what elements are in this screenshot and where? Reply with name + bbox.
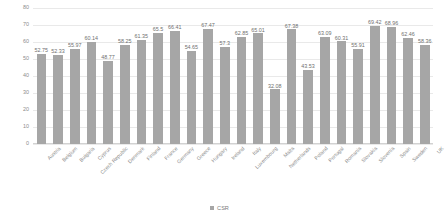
bar-value-label: 65.5 (153, 27, 164, 32)
bar[interactable]: 67.47 (203, 29, 213, 144)
chart-legend: CSR (0, 205, 439, 211)
bar-value-label: 60.14 (85, 36, 99, 41)
y-axis-tick-label: 40 (0, 73, 29, 78)
bar[interactable]: 58.25 (120, 45, 130, 144)
bar-slot: 58.36 (416, 8, 433, 144)
bar-value-label: 65.01 (251, 28, 265, 33)
y-axis-tick-label: 70 (0, 22, 29, 27)
bar-slot: 52.75 (33, 8, 50, 144)
y-axis-tick-label: 0 (0, 141, 29, 146)
bar-value-label: 66.41 (168, 25, 182, 30)
bar[interactable]: 67.38 (287, 29, 297, 144)
bar-slot: 67.38 (283, 8, 300, 144)
legend-swatch-csr (210, 206, 214, 210)
bar-value-label: 62.46 (401, 32, 415, 37)
x-axis-tick-label: UK (437, 146, 446, 155)
bar-slot: 60.31 (333, 8, 350, 144)
bar-value-label: 43.53 (301, 64, 315, 69)
bar-value-label: 63.09 (318, 31, 332, 36)
bar-slot: 65.5 (150, 8, 167, 144)
bar[interactable]: 69.42 (370, 26, 380, 144)
bar-value-label: 57.3 (219, 41, 230, 46)
y-axis-tick-label: 50 (0, 56, 29, 61)
bar-slot: 62.46 (400, 8, 417, 144)
bar-slot: 58.25 (116, 8, 133, 144)
bar-value-label: 58.25 (118, 39, 132, 44)
bar[interactable]: 61.35 (137, 40, 147, 144)
bar-value-label: 32.08 (268, 84, 282, 89)
bar-slot: 62.85 (233, 8, 250, 144)
legend-label-csr: CSR (217, 205, 229, 211)
bar-slot: 55.97 (66, 8, 83, 144)
bar-slot: 57.3 (216, 8, 233, 144)
bar[interactable]: 68.96 (387, 27, 397, 144)
bar-slot: 54.65 (183, 8, 200, 144)
bar-value-label: 69.42 (368, 20, 382, 25)
plot-area: 52.7552.3355.9760.1448.7758.2561.3565.56… (33, 8, 433, 144)
bar[interactable]: 55.91 (353, 49, 363, 144)
y-axis-tick-label: 30 (0, 90, 29, 95)
y-axis-tick-label: 60 (0, 39, 29, 44)
y-axis-tick-label: 80 (0, 5, 29, 10)
bar-value-label: 55.91 (351, 43, 365, 48)
bar-slot: 66.41 (166, 8, 183, 144)
bar[interactable]: 63.09 (320, 37, 330, 144)
bar-value-label: 52.33 (51, 49, 65, 54)
bar[interactable]: 32.08 (270, 89, 280, 144)
bar[interactable]: 65.5 (153, 33, 163, 144)
bar[interactable]: 55.97 (70, 49, 80, 144)
bar[interactable]: 62.85 (237, 37, 247, 144)
bar[interactable]: 48.77 (103, 61, 113, 144)
bar-value-label: 68.96 (385, 21, 399, 26)
bar-value-label: 55.97 (68, 43, 82, 48)
x-axis-label-slot: UK (33, 146, 442, 152)
bar-slot: 65.01 (250, 8, 267, 144)
bar-value-label: 60.31 (335, 36, 349, 41)
bar[interactable]: 66.41 (170, 31, 180, 144)
bar-value-label: 58.36 (418, 39, 432, 44)
bar-value-label: 62.85 (235, 31, 249, 36)
bar[interactable]: 62.46 (403, 38, 413, 144)
bar[interactable]: 60.14 (87, 42, 97, 144)
bar-slot: 67.47 (200, 8, 217, 144)
bar-slot: 43.53 (300, 8, 317, 144)
y-axis-tick-label: 10 (0, 124, 29, 129)
bar-slot: 63.09 (316, 8, 333, 144)
bar-slot: 69.42 (366, 8, 383, 144)
bar-slot: 68.96 (383, 8, 400, 144)
x-axis-category-labels: AustriaBelgiumBulgariaCyprusCzech Republ… (33, 146, 433, 202)
y-axis-tick-label: 20 (0, 107, 29, 112)
bar-slot: 32.08 (266, 8, 283, 144)
bar-value-label: 54.65 (185, 45, 199, 50)
bar-slot: 60.14 (83, 8, 100, 144)
bar[interactable]: 65.01 (253, 33, 263, 144)
bar-value-label: 67.38 (285, 24, 299, 29)
bar-slot: 48.77 (100, 8, 117, 144)
bar[interactable]: 57.3 (220, 47, 230, 144)
bar-slot: 55.91 (350, 8, 367, 144)
bar[interactable]: 43.53 (303, 70, 313, 144)
bar-value-label: 67.47 (201, 23, 215, 28)
bar[interactable]: 58.36 (420, 45, 430, 144)
bar-value-label: 48.77 (101, 55, 115, 60)
bar[interactable]: 54.65 (187, 51, 197, 144)
bar-slot: 61.35 (133, 8, 150, 144)
bar-value-label: 61.35 (135, 34, 149, 39)
bar-slot: 52.33 (50, 8, 67, 144)
bar[interactable]: 52.33 (53, 55, 63, 144)
bar[interactable]: 52.75 (37, 54, 47, 144)
bar-value-label: 52.75 (35, 48, 49, 53)
bar-series-csr: 52.7552.3355.9760.1448.7758.2561.3565.56… (33, 8, 433, 144)
bar[interactable]: 60.31 (337, 41, 347, 144)
